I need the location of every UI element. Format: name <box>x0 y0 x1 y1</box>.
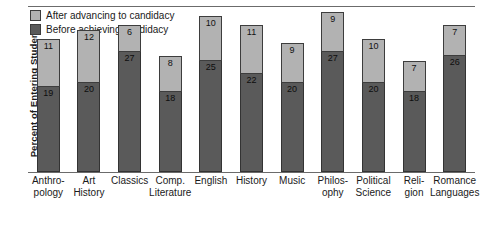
bar-group: 1122 <box>240 25 263 172</box>
bar-value-label-before: 26 <box>444 57 465 67</box>
bar-segment-before: 18 <box>159 92 182 172</box>
bar-group: 1025 <box>199 16 222 172</box>
bar-segment-after: 6 <box>118 25 141 52</box>
bar-segment-after: 10 <box>199 16 222 61</box>
bar-group: 920 <box>281 43 304 172</box>
x-axis-tick-labels: Anthro- pologyArt HistoryClassicsComp. L… <box>28 175 475 223</box>
bar-value-label-after: 11 <box>38 41 59 51</box>
bar-value-label-before: 20 <box>363 84 384 94</box>
bar-segment-after: 11 <box>37 39 60 88</box>
bar-group: 627 <box>118 25 141 172</box>
plot-area: 11191220627818102511229209271020718726 <box>28 6 475 172</box>
bar-value-label-before: 20 <box>282 84 303 94</box>
bar-segment-before: 26 <box>443 56 466 172</box>
bar-segment-before: 27 <box>118 52 141 172</box>
bar-segment-before: 19 <box>37 87 60 172</box>
bar-value-label-after: 11 <box>241 27 262 37</box>
bar-segment-after: 7 <box>403 61 426 92</box>
bar-value-label-after: 12 <box>78 32 99 42</box>
bar-group: 726 <box>443 25 466 172</box>
bar-group: 1020 <box>362 39 385 173</box>
bar-segment-before: 20 <box>77 83 100 172</box>
bar-group: 718 <box>403 61 426 172</box>
bar-segment-after: 10 <box>362 39 385 84</box>
bar-segment-after: 7 <box>443 25 466 56</box>
bar-value-label-after: 8 <box>160 58 181 68</box>
stacked-bar-chart: Percent of Entering Students After advan… <box>0 0 484 226</box>
bar-segment-after: 12 <box>77 30 100 83</box>
bar-segment-after: 8 <box>159 56 182 92</box>
bar-segment-before: 20 <box>362 83 385 172</box>
bar-value-label-before: 19 <box>38 88 59 98</box>
bar-group: 1119 <box>37 39 60 172</box>
bar-value-label-after: 10 <box>363 41 384 51</box>
bar-value-label-after: 9 <box>282 45 303 55</box>
bar-value-label-before: 27 <box>119 53 140 63</box>
bar-segment-before: 27 <box>321 52 344 172</box>
bar-segment-after: 9 <box>321 12 344 52</box>
bar-value-label-before: 27 <box>322 53 343 63</box>
bar-value-label-before: 20 <box>78 84 99 94</box>
bar-value-label-before: 22 <box>241 75 262 85</box>
bar-value-label-after: 9 <box>322 14 343 24</box>
bar-segment-after: 9 <box>281 43 304 83</box>
bar-segment-after: 11 <box>240 25 263 74</box>
bar-value-label-after: 7 <box>444 27 465 37</box>
bar-value-label-after: 7 <box>404 63 425 73</box>
bar-segment-before: 18 <box>403 92 426 172</box>
bar-value-label-before: 18 <box>404 93 425 103</box>
bar-segment-before: 25 <box>199 61 222 172</box>
bar-value-label-after: 10 <box>200 18 221 28</box>
bar-value-label-after: 6 <box>119 27 140 37</box>
x-axis-tick-label: Romance Languages <box>428 175 481 199</box>
bar-group: 1220 <box>77 30 100 172</box>
bar-group: 927 <box>321 12 344 172</box>
bar-segment-before: 22 <box>240 74 263 172</box>
bar-value-label-before: 25 <box>200 62 221 72</box>
bar-value-label-before: 18 <box>160 93 181 103</box>
bar-segment-before: 20 <box>281 83 304 172</box>
x-axis-baseline <box>28 172 475 173</box>
bar-group: 818 <box>159 56 182 172</box>
